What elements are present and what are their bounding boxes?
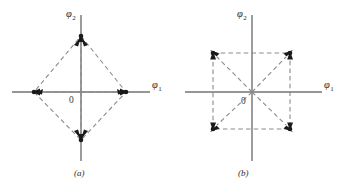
panel-b-point-bottom-left <box>211 127 216 132</box>
panel-b-vector-to-top-left <box>217 57 252 92</box>
panel-b-vector-to-top-right <box>252 57 286 92</box>
panel-b-y-axis-label-subscript: 2 <box>243 14 247 22</box>
panel-b-caption: (b) <box>238 168 249 178</box>
panel-a-caption: (a) <box>74 168 85 178</box>
panel-a-x-axis-label: φ1 <box>152 79 162 93</box>
panel-a: φ1 φ2 0 (a) <box>12 8 162 178</box>
panel-b-x-axis-label: φ1 <box>324 79 334 93</box>
panel-b-origin-label: 0 <box>241 96 246 106</box>
panel-a-point-top <box>79 34 84 39</box>
panel-b-x-axis-label-symbol: φ <box>324 79 330 90</box>
panel-b-point-top-left <box>211 51 216 56</box>
panel-a-x-axis-label-subscript: 1 <box>158 85 162 93</box>
panel-a-y-axis-label-subscript: 2 <box>72 14 76 22</box>
panel-a-constellation-outline <box>34 36 126 140</box>
figure-canvas: φ1 φ2 0 (a) <box>0 0 340 186</box>
signal-constellation-figure: φ1 φ2 0 (a) <box>0 0 340 186</box>
panel-a-point-right <box>124 90 129 95</box>
panel-a-x-axis-label-symbol: φ <box>152 79 158 90</box>
panel-b-x-axis-label-subscript: 1 <box>330 85 334 93</box>
panel-a-y-axis-label: φ2 <box>66 8 76 22</box>
panel-a-point-bottom <box>79 138 84 143</box>
panel-b-y-axis-label: φ2 <box>237 8 247 22</box>
panel-a-y-axis-label-symbol: φ <box>66 8 72 19</box>
panel-a-point-left <box>32 90 37 95</box>
panel-a-origin-label: 0 <box>69 95 74 105</box>
panel-b: φ1 φ2 0 (b) <box>185 8 334 178</box>
panel-b-vector-to-bottom-right <box>252 92 286 125</box>
panel-b-point-top-right <box>288 51 293 56</box>
panel-b-point-bottom-right <box>288 127 293 132</box>
panel-b-vector-to-bottom-left <box>217 92 252 125</box>
panel-b-y-axis-label-symbol: φ <box>237 8 243 19</box>
